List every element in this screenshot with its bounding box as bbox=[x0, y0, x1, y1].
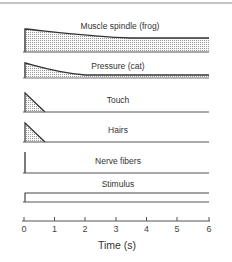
label-nerve-fibers: Nerve fibers bbox=[95, 156, 141, 166]
x-tick-1: 1 bbox=[52, 224, 57, 234]
label-hairs: Hairs bbox=[108, 125, 128, 135]
x-axis-label: Time (s) bbox=[98, 239, 136, 251]
x-tick-4: 4 bbox=[144, 224, 149, 234]
x-tick-2: 2 bbox=[82, 224, 87, 234]
x-tick-6: 6 bbox=[206, 224, 211, 234]
label-muscle-spindle: Muscle spindle (frog) bbox=[81, 21, 160, 31]
trace-stimulus bbox=[23, 193, 209, 202]
label-stimulus: Stimulus bbox=[102, 179, 135, 189]
x-tick-0: 0 bbox=[21, 224, 26, 234]
x-axis bbox=[22, 217, 210, 221]
trace-muscle-spindle bbox=[23, 29, 209, 52]
x-tick-3: 3 bbox=[113, 224, 118, 234]
x-tick-5: 5 bbox=[174, 224, 179, 234]
label-pressure: Pressure (cat) bbox=[91, 61, 144, 71]
label-touch: Touch bbox=[107, 95, 130, 105]
adaptation-chart: Muscle spindle (frog) Pressure (cat) Tou… bbox=[0, 0, 232, 262]
